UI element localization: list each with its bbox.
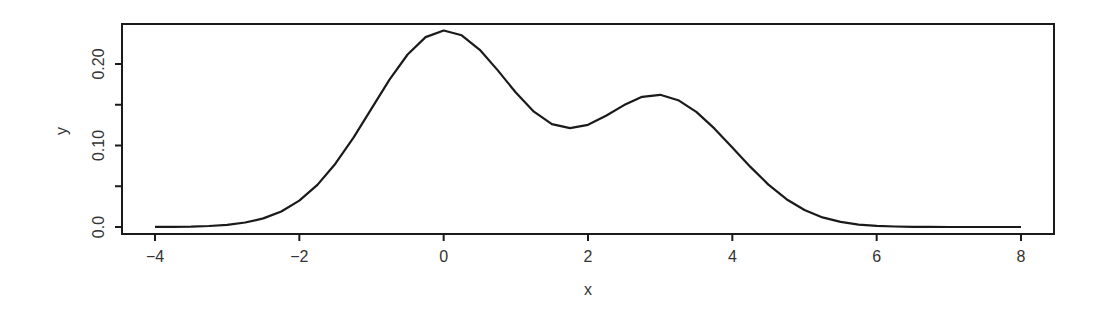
plot-frame bbox=[122, 24, 1054, 234]
y-tick-label: 0.0 bbox=[90, 216, 107, 238]
y-tick-label: 0.10 bbox=[90, 130, 107, 161]
x-axis-label: x bbox=[584, 281, 592, 298]
x-tick-label: 2 bbox=[584, 248, 593, 265]
x-axis: −4−202468 bbox=[146, 234, 1026, 265]
density-line-chart: −4−202468 0.00.100.20 x y bbox=[0, 0, 1109, 311]
y-axis-label: y bbox=[53, 127, 70, 135]
density-curve bbox=[155, 31, 1021, 228]
x-tick-label: 0 bbox=[439, 248, 448, 265]
x-tick-label: 6 bbox=[872, 248, 881, 265]
x-tick-label: −4 bbox=[146, 248, 164, 265]
x-tick-label: 4 bbox=[728, 248, 737, 265]
y-tick-label: 0.20 bbox=[90, 48, 107, 79]
x-tick-label: −2 bbox=[290, 248, 308, 265]
y-axis: 0.00.100.20 bbox=[90, 48, 122, 238]
x-tick-label: 8 bbox=[1017, 248, 1026, 265]
